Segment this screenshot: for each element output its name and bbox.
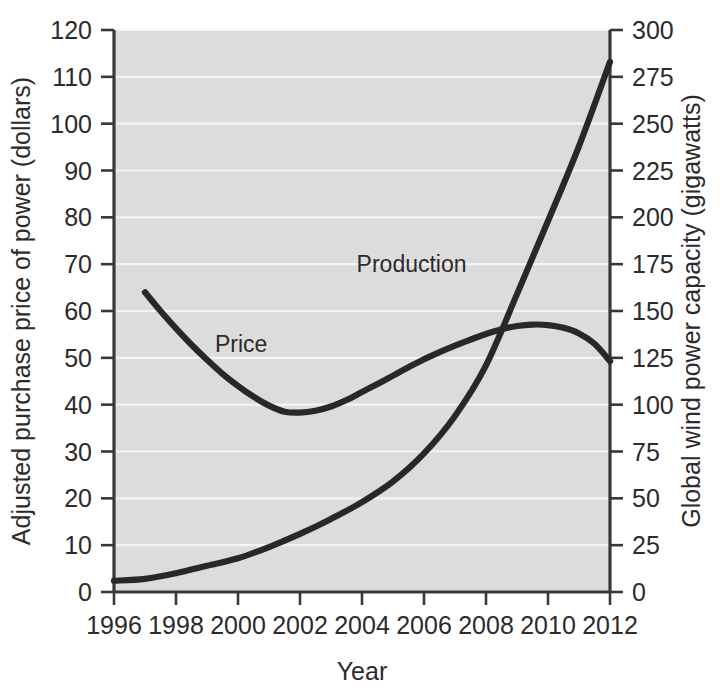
right-axis-tick-label: 175 xyxy=(632,250,674,278)
left-axis-tick-label: 50 xyxy=(64,344,92,372)
right-axis-tick-label: 150 xyxy=(632,297,674,325)
right-axis-tick-label: 100 xyxy=(632,391,674,419)
x-axis-tick-label: 2008 xyxy=(458,611,514,639)
x-axis-tick-label: 2002 xyxy=(272,611,328,639)
x-axis-tick-label: 1996 xyxy=(86,611,142,639)
secondary-y-axis-title: Global wind power capacity (gigawatts) xyxy=(677,94,705,528)
x-axis-tick-label: 2010 xyxy=(520,611,576,639)
right-axis-tick-label: 225 xyxy=(632,157,674,185)
left-axis-ticks xyxy=(101,30,114,592)
right-axis-tick-label: 200 xyxy=(632,203,674,231)
left-axis-tick-label: 10 xyxy=(64,531,92,559)
y-axis-title: Adjusted purchase price of power (dollar… xyxy=(7,77,35,545)
right-axis-tick-label: 75 xyxy=(632,438,660,466)
left-axis-tick-label: 70 xyxy=(64,250,92,278)
left-axis-tick-label: 20 xyxy=(64,484,92,512)
right-axis-tick-label: 275 xyxy=(632,63,674,91)
right-axis-tick-label: 25 xyxy=(632,531,660,559)
x-axis-tick-label: 2012 xyxy=(582,611,638,639)
series-annotation-price: Price xyxy=(215,331,267,357)
right-axis-tick-label: 125 xyxy=(632,344,674,372)
left-axis-tick-label: 80 xyxy=(64,203,92,231)
left-axis-tick-label: 110 xyxy=(52,63,92,91)
x-axis-tick-label: 2006 xyxy=(396,611,452,639)
dual-axis-line-chart: 0102030405060708090100110120025507510012… xyxy=(0,0,723,687)
series-annotation-production: Production xyxy=(357,251,467,277)
chart-figure: 0102030405060708090100110120025507510012… xyxy=(0,0,723,687)
left-axis-tick-label: 40 xyxy=(64,391,92,419)
x-axis-tick-label: 2000 xyxy=(210,611,266,639)
right-axis-tick-label: 250 xyxy=(632,110,674,138)
left-axis-tick-label: 100 xyxy=(50,110,92,138)
left-axis-tick-label: 0 xyxy=(78,578,92,606)
x-axis-tick-label: 2004 xyxy=(334,611,390,639)
left-axis-tick-label: 120 xyxy=(50,16,92,44)
x-axis-tick-label: 1998 xyxy=(148,611,204,639)
right-axis-tick-label: 300 xyxy=(632,16,674,44)
left-axis-tick-label: 30 xyxy=(64,438,92,466)
bottom-axis-ticks xyxy=(114,592,610,605)
x-axis-title: Year xyxy=(337,657,388,685)
right-axis-ticks xyxy=(610,30,623,592)
right-axis-tick-label: 0 xyxy=(632,578,646,606)
left-axis-tick-label: 60 xyxy=(64,297,92,325)
left-axis-tick-label: 90 xyxy=(64,157,92,185)
right-axis-tick-label: 50 xyxy=(632,484,660,512)
